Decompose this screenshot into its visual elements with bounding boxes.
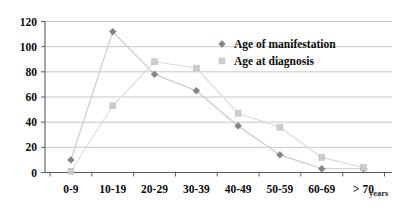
series-line: [71, 32, 364, 169]
data-point-square-marker: [68, 168, 74, 174]
data-point-diamond-marker: [277, 151, 284, 158]
data-point-diamond-marker: [318, 165, 325, 172]
y-axis-tick-label: 100: [20, 41, 38, 53]
legend: Age of manifestationAge at diagnosis: [219, 38, 337, 68]
y-axis-tick-label: 80: [26, 66, 38, 78]
series-markers-group: [68, 28, 367, 174]
x-axis-tick-label: 30-39: [183, 183, 210, 195]
data-point-diamond-marker: [68, 157, 75, 164]
legend-square-marker-icon: [219, 58, 225, 64]
data-point-square-marker: [110, 103, 116, 109]
x-axis-tick-label: 10-19: [99, 183, 126, 195]
y-axis-tick-label: 60: [26, 91, 38, 103]
x-axis-unit-label: years: [369, 188, 389, 198]
x-axis-tick-label: 60-69: [308, 183, 335, 195]
data-point-square-marker: [193, 65, 199, 71]
data-point-square-marker: [277, 124, 283, 130]
data-point-square-marker: [361, 165, 367, 171]
x-axis-tick-label: 40-49: [225, 183, 252, 195]
data-point-square-marker: [152, 59, 158, 65]
line-chart-plot: 020406080100120 0-910-1920-2930-3940-495…: [0, 0, 401, 207]
y-axis-tick-label: 0: [31, 167, 37, 179]
x-axis-tick-label: 50-59: [267, 183, 294, 195]
chart-container: 020406080100120 0-910-1920-2930-3940-495…: [0, 0, 401, 207]
x-axis-tick-label: 20-29: [141, 183, 168, 195]
x-axis-ticks-group: 0-910-1920-2930-3940-4950-5960-69> 70: [50, 173, 384, 195]
legend-item-label: Age of manifestation: [234, 38, 336, 51]
y-axis-ticks-group: 020406080100120: [20, 16, 45, 179]
series-lines-group: [71, 32, 364, 172]
legend-item-label: Age at diagnosis: [234, 55, 314, 68]
data-point-square-marker: [235, 110, 241, 116]
data-point-square-marker: [319, 155, 325, 161]
y-axis-tick-label: 40: [26, 116, 38, 128]
x-axis-tick-label: 0-9: [63, 183, 79, 195]
gridlines-group: [45, 22, 392, 148]
y-axis-tick-label: 120: [20, 16, 38, 28]
y-axis-tick-label: 20: [26, 141, 38, 153]
